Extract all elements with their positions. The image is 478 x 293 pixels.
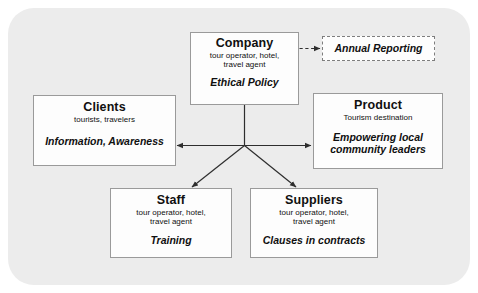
node-annual-reporting-label: Annual Reporting	[334, 43, 422, 55]
node-staff-subtitle-line2: travel agent	[150, 218, 192, 227]
node-suppliers-action: Clauses in contracts	[263, 235, 366, 247]
node-product-title: Product	[354, 99, 402, 112]
node-suppliers-title: Suppliers	[285, 194, 343, 207]
node-suppliers[interactable]: Suppliers tour operator, hotel, travel a…	[250, 188, 378, 258]
node-staff[interactable]: Staff tour operator, hotel, travel agent…	[110, 188, 232, 258]
node-company-action: Ethical Policy	[210, 77, 278, 89]
node-suppliers-subtitle-line2: travel agent	[293, 218, 335, 227]
node-annual-reporting[interactable]: Annual Reporting	[322, 36, 435, 61]
node-clients-action: Information, Awareness	[45, 136, 164, 148]
diagram-canvas: Company tour operator, hotel, travel age…	[0, 0, 478, 293]
node-clients-subtitle-line1: tourists, travelers	[74, 116, 135, 125]
node-company-subtitle-line2: travel agent	[224, 61, 266, 70]
node-staff-action: Training	[150, 235, 191, 247]
node-product-action-line2: community leaders	[330, 144, 426, 156]
node-clients[interactable]: Clients tourists, travelers Information,…	[33, 95, 176, 166]
node-staff-title: Staff	[157, 194, 185, 207]
node-clients-title: Clients	[83, 101, 125, 114]
node-product-subtitle-line1: Tourism destination	[344, 114, 413, 123]
node-company[interactable]: Company tour operator, hotel, travel age…	[190, 32, 299, 105]
node-product[interactable]: Product Tourism destination Empowering l…	[313, 93, 443, 169]
node-company-title: Company	[216, 37, 274, 50]
